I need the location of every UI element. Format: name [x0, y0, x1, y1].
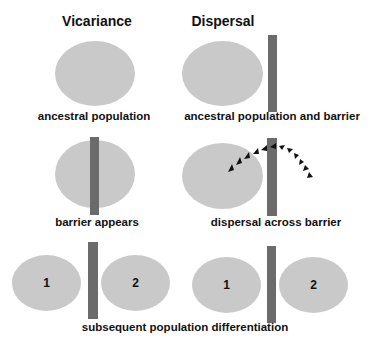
barrier-bar-vicariance-final — [88, 242, 98, 319]
population-2-vicariance: 2 — [101, 255, 170, 311]
population-1-vicariance: 1 — [12, 255, 81, 311]
label-dispersal-across-barrier: dispersal across barrier — [211, 216, 341, 228]
label-subsequent-differentiation: subsequent population differentiation — [82, 321, 288, 333]
barrier-bar-dispersal-final — [267, 246, 276, 323]
population-1-dispersal: 1 — [192, 257, 261, 313]
label-barrier-appears: barrier appears — [55, 216, 139, 228]
population-2-dispersal: 2 — [279, 257, 348, 313]
